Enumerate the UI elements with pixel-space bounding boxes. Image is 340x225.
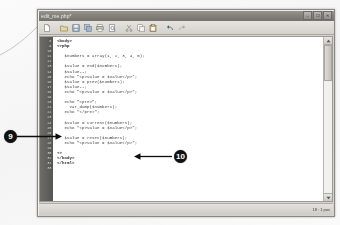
callout-arrows [0, 0, 340, 225]
screenshot-canvas: edit_me.php* – ❐ ✕ [0, 0, 340, 225]
callout-marker-9: 9 [4, 130, 17, 143]
callout-marker-10: 10 [174, 150, 187, 163]
